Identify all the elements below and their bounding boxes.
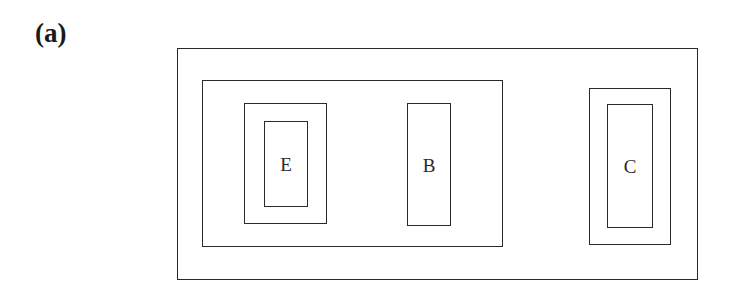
c-inner-box: C: [607, 104, 653, 228]
b-box: B: [407, 103, 451, 226]
e-label: E: [265, 155, 307, 174]
panel-label: (a): [35, 20, 66, 47]
b-label: B: [408, 155, 450, 174]
c-label: C: [608, 157, 652, 176]
e-inner-box: E: [264, 121, 308, 207]
